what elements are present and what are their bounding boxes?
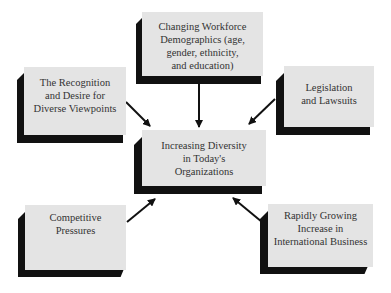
- box-text-line: Pressures: [56, 224, 96, 237]
- box-text-line: The Recognition: [40, 76, 110, 89]
- box-text-line: Demographics (age,: [160, 33, 245, 46]
- arrow-competitive: [127, 199, 155, 222]
- box-face: Legislation and Lawsuits: [284, 66, 374, 127]
- box-text-line: Changing Workforce: [159, 20, 247, 33]
- box-face: Changing Workforce Demographics (age, ge…: [142, 12, 263, 76]
- box-text-line: and education): [171, 59, 233, 72]
- arrow-viewpoints: [126, 102, 150, 126]
- box-face: Rapidly Growing Increase in Internationa…: [268, 204, 373, 267]
- box-text-line: and Desire for: [45, 89, 105, 102]
- box-text-line: Diverse Viewpoints: [34, 102, 117, 115]
- box-face: Competitive Pressures: [25, 205, 126, 270]
- box-text-line: Increase in: [298, 222, 344, 235]
- box-text-line: Rapidly Growing: [284, 209, 357, 222]
- arrow-legislation: [249, 99, 275, 124]
- box-text-line: Legislation: [305, 81, 352, 94]
- box-text-line: International Business: [274, 235, 368, 248]
- box-text-line: in Today's: [183, 152, 226, 165]
- box-face: Increasing Diversity in Today's Organiza…: [142, 130, 266, 186]
- box-text-line: gender, ethnicity,: [166, 46, 238, 59]
- box-face: The Recognition and Desire for Diverse V…: [24, 67, 126, 135]
- box-text-line: Competitive: [50, 211, 102, 224]
- arrow-international: [233, 198, 262, 222]
- box-text-line: Organizations: [175, 165, 234, 178]
- box-text-line: Increasing Diversity: [161, 139, 246, 152]
- box-text-line: and Lawsuits: [301, 94, 357, 107]
